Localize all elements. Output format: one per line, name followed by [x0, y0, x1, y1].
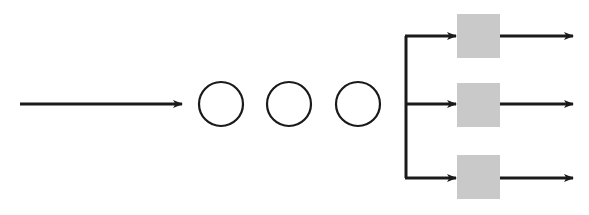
- branch-2-block: [457, 83, 500, 127]
- branch-3: [405, 155, 573, 199]
- circle-node-1: [199, 82, 243, 126]
- circle-node-3: [336, 82, 380, 126]
- branch-1-block: [457, 14, 500, 58]
- branch-1: [405, 14, 573, 58]
- branches: [405, 14, 573, 199]
- circle-node-2: [267, 82, 311, 126]
- branch-3-block: [457, 155, 500, 199]
- nodes: [199, 82, 380, 126]
- flow-diagram: [0, 0, 589, 215]
- branch-2: [405, 83, 573, 127]
